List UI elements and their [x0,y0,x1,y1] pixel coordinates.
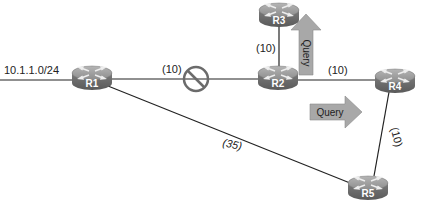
query-arrow-up-label: Query [301,39,312,66]
router-r3-label: R3 [273,15,286,26]
router-r1-label: R1 [86,78,99,89]
query-arrow-right-label: Query [316,107,343,118]
router-r3[interactable]: R3 [259,3,299,27]
router-r4-label: R4 [389,81,402,92]
router-r5[interactable]: R5 [348,176,388,200]
network-label: 10.1.1.0/24 [4,64,59,76]
metric-r1-r2: (10) [162,63,182,75]
link-r1-r5 [108,86,350,183]
link-r4-r5 [374,92,389,176]
router-r1[interactable]: R1 [72,66,112,90]
router-r5-label: R5 [362,188,375,199]
metric-r4-r5: (10) [389,126,406,148]
query-arrow-right: Query [310,96,362,128]
metric-r2-r4: (10) [328,64,348,76]
network-diagram: Query Query 10.1.1.0/24 (10) (10) (10) (… [0,0,422,204]
router-r2[interactable]: R2 [258,66,298,90]
metric-r2-r3: (10) [256,42,276,54]
router-r2-label: R2 [272,78,285,89]
router-r4[interactable]: R4 [375,69,415,93]
